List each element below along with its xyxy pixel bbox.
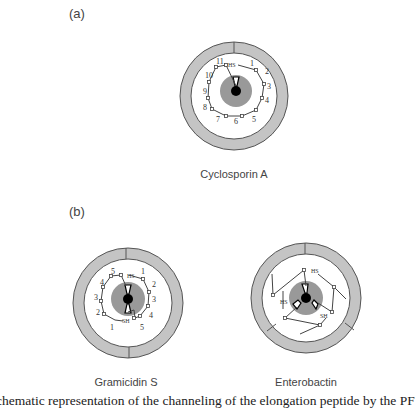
enterobactin-diagram: HSHS SH [251, 243, 361, 353]
svg-text:SH: SH [320, 313, 328, 319]
svg-text:1: 1 [110, 323, 114, 332]
svg-text:HS: HS [127, 273, 135, 279]
svg-text:11: 11 [216, 57, 224, 66]
svg-text:9: 9 [203, 87, 207, 96]
caption-enterobactin: Enterobactin [256, 376, 356, 388]
svg-text:10: 10 [205, 71, 213, 80]
svg-text:HS: HS [228, 62, 236, 68]
svg-text:HS: HS [280, 299, 288, 305]
svg-text:2: 2 [152, 280, 156, 289]
svg-text:5: 5 [252, 115, 256, 124]
svg-text:HS: HS [311, 268, 319, 274]
svg-text:5: 5 [140, 323, 144, 332]
svg-text:7: 7 [216, 115, 220, 124]
svg-text:4: 4 [265, 96, 269, 105]
gramicidin-diagram: HSSH 12 34 5 54 32 1 [73, 248, 183, 358]
svg-text:3: 3 [94, 293, 98, 302]
svg-text:3: 3 [152, 295, 156, 304]
svg-text:1: 1 [141, 267, 145, 276]
svg-text:2: 2 [265, 67, 269, 76]
svg-text:5: 5 [111, 267, 115, 276]
svg-text:6: 6 [234, 117, 238, 126]
svg-text:4: 4 [100, 278, 104, 287]
svg-text:8: 8 [203, 103, 207, 112]
caption-cyclosporin: Cyclosporin A [184, 168, 284, 180]
figure-caption: chematic representation of the channelin… [0, 393, 416, 409]
svg-text:4: 4 [149, 311, 153, 320]
cyclosporin-diagram: HS 12 34 56 78 910 11 [180, 42, 288, 150]
svg-text:2: 2 [96, 308, 100, 317]
svg-text:SH: SH [122, 318, 130, 324]
caption-gramicidin: Gramicidin S [76, 376, 176, 388]
svg-text:3: 3 [267, 82, 271, 91]
svg-text:1: 1 [250, 59, 254, 68]
